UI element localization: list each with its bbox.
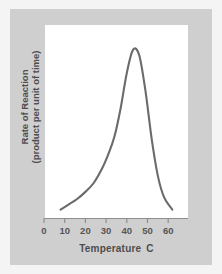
x-axis-tick-labels: 0102030405060	[41, 225, 173, 236]
reaction-rate-curve	[61, 48, 173, 209]
x-axis-tick-label: 0	[41, 225, 46, 236]
y-axis-label-line1: Rate of Reaction	[19, 27, 30, 187]
figure-container: 0102030405060 TemperatureC Rate of React…	[0, 0, 222, 274]
x-axis-tick-label: 40	[122, 225, 133, 236]
x-axis-label-text: Temperature	[79, 243, 141, 254]
y-axis-label-line2: (product per unit of time)	[30, 27, 41, 187]
x-axis-tick-label: 30	[101, 225, 112, 236]
x-axis-label: TemperatureC	[45, 243, 188, 254]
x-axis-unit-text: C	[146, 243, 153, 254]
x-axis-tick-label: 50	[142, 225, 153, 236]
x-axis-tick-label: 10	[59, 225, 70, 236]
x-axis-tick-label: 20	[80, 225, 91, 236]
x-axis-tick-label: 60	[163, 225, 174, 236]
x-axis-ticks	[44, 219, 168, 224]
y-axis-label: Rate of Reaction (product per unit of ti…	[19, 27, 41, 187]
